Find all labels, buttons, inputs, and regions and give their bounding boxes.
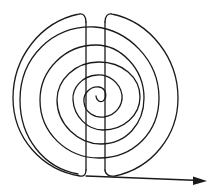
diagram-svg (0, 0, 218, 193)
spiral-path (20, 27, 159, 174)
arrow-line (86, 176, 200, 181)
outer-left-lobe (13, 14, 86, 176)
arrow-head-icon (193, 177, 207, 186)
spiral-diagram (0, 0, 218, 193)
outer-right-lobe (105, 14, 178, 176)
